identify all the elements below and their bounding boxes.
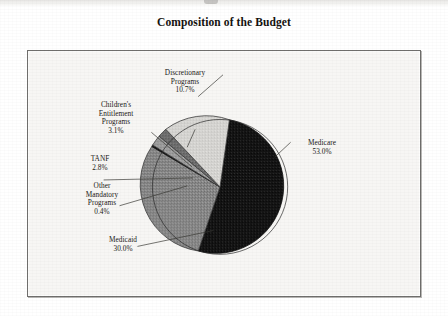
page-edge-artifact (204, 0, 218, 4)
scanned-page-top-edge (0, 0, 448, 6)
pie-label-medicaid: Medicaid 30.0% (92, 236, 154, 253)
pie-label-other-mandatory-percent: 0.4% (73, 208, 131, 217)
pie-label-medicaid-percent: 30.0% (92, 245, 154, 254)
pie-label-discretionary-percent: 10.7% (151, 86, 219, 95)
chart-frame (27, 50, 421, 297)
page-title: Composition of the Budget (0, 16, 448, 28)
pie-label-childrens-entitlement: Children's Entitlement Programs 3.1% (81, 101, 151, 135)
leader-line-medicare (275, 142, 291, 157)
pie-label-other-mandatory: Other Mandatory Programs 0.4% (73, 182, 131, 216)
pie-label-tanf: TANF 2.8% (76, 155, 124, 172)
pie-label-tanf-percent: 2.8% (76, 164, 124, 173)
pie-label-childrens-entitlement-percent: 3.1% (81, 127, 151, 136)
pie-label-discretionary: Discretionary Programs 10.7% (151, 69, 219, 95)
pie-label-medicare: Medicare 53.0% (291, 139, 353, 156)
pie-chart-plot (28, 51, 420, 296)
pie-label-medicare-percent: 53.0% (291, 148, 353, 157)
